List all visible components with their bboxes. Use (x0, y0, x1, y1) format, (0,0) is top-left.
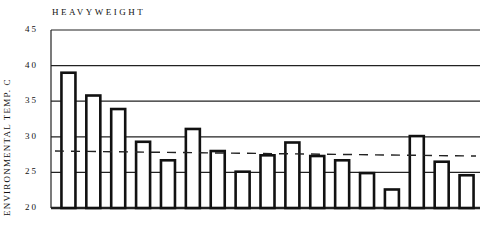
bar (236, 172, 250, 208)
bar (61, 73, 75, 208)
bar (385, 189, 399, 208)
bar (410, 136, 424, 208)
bar (310, 156, 324, 208)
bar-chart-plot (0, 0, 485, 231)
bar (460, 175, 474, 208)
bar (261, 155, 275, 208)
bar (111, 109, 125, 208)
bar (435, 162, 449, 208)
bar (360, 173, 374, 208)
bar (335, 160, 349, 208)
bar (186, 129, 200, 208)
bar (285, 142, 299, 208)
bar (211, 151, 225, 208)
bar (161, 160, 175, 208)
